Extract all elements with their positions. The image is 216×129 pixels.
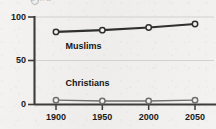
- data-point: [192, 97, 197, 102]
- data-point: [53, 29, 58, 34]
- plot-canvas: [0, 0, 216, 129]
- y-tick-marks: [28, 17, 34, 105]
- data-point: [146, 98, 151, 103]
- chart-figure: a m a 100500 1900195020002050 MuslimsChr…: [0, 0, 216, 129]
- x-axis-label-2000: 2000: [129, 113, 169, 122]
- data-point: [192, 21, 197, 26]
- series-christians: [53, 97, 197, 103]
- series-label-muslims: Muslims: [66, 42, 102, 51]
- series-layer: [53, 21, 197, 103]
- y-axis-label-100: 100: [0, 13, 26, 22]
- series-label-christians: Christians: [66, 79, 110, 88]
- y-axis-label-0: 0: [0, 100, 26, 109]
- y-axis-label-50: 50: [0, 56, 26, 65]
- x-axis-label-2050: 2050: [175, 113, 215, 122]
- data-point: [146, 25, 151, 30]
- gridlines: [34, 17, 214, 61]
- data-point: [100, 27, 105, 32]
- data-point: [100, 98, 105, 103]
- series-line: [56, 24, 195, 32]
- series-line: [56, 100, 195, 101]
- data-point: [53, 97, 58, 102]
- x-axis-label-1900: 1900: [36, 113, 76, 122]
- series-muslims: [53, 21, 197, 34]
- x-axis-label-1950: 1950: [82, 113, 122, 122]
